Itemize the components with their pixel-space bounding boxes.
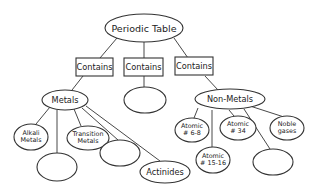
node-label: Metals (52, 95, 79, 105)
node-actinides: Actinides (140, 161, 190, 183)
node-atomic-6-8: Atomic # 6-8 (175, 118, 209, 142)
node-label-line2: # 34 (230, 127, 246, 135)
node-label-line2: Metals (21, 136, 43, 144)
node-empty-metal-2 (100, 140, 140, 166)
node-empty-nonmetal (253, 149, 293, 175)
connector-box-left: Contains (76, 58, 113, 76)
node-atomic-15-16: Atomic # 15-16 (196, 147, 230, 173)
connector-label: Contains (176, 61, 212, 71)
node-label-line2: # 15-16 (200, 159, 226, 167)
concept-map-canvas: Periodic Table Contains Contains Contain… (0, 0, 316, 193)
node-label: Periodic Table (111, 23, 176, 34)
node-empty-category (124, 87, 166, 113)
node-metals: Metals (42, 90, 88, 110)
node-label-line2: gases (278, 127, 297, 135)
node-alkali-metals: Alkali Metals (14, 124, 48, 150)
connector-box-right: Contains (175, 57, 213, 75)
node-empty-metal-1 (37, 153, 77, 181)
node-periodic-table: Periodic Table (105, 14, 183, 42)
node-noble-gases: Noble gases (270, 116, 304, 140)
node-atomic-34: Atomic # 34 (220, 116, 256, 140)
node-non-metals: Non-Metals (195, 89, 265, 109)
connector-box-middle: Contains (124, 58, 163, 76)
node-label: Actinides (146, 167, 183, 177)
connector-label: Contains (126, 62, 162, 72)
node-label: Non-Metals (207, 94, 253, 104)
connector-label: Contains (77, 62, 113, 72)
node-label-line2: Metals (78, 137, 100, 145)
node-label-line2: # 6-8 (183, 129, 201, 137)
